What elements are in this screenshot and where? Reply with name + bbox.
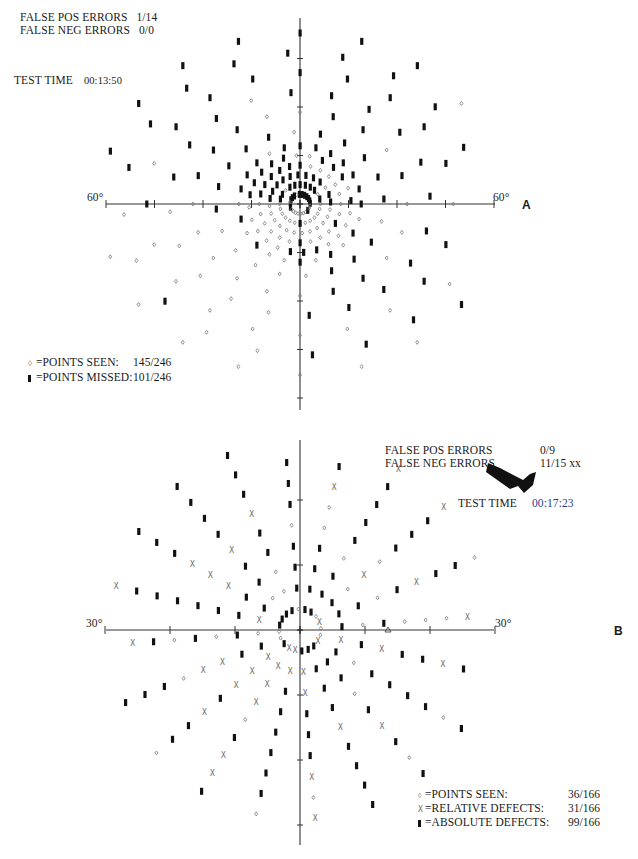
svg-text:X: X: [441, 503, 446, 512]
svg-text:X: X: [338, 723, 343, 732]
svg-text:X: X: [380, 722, 385, 731]
svg-text:X: X: [221, 751, 226, 760]
legend-b-relative: X=RELATIVE DEFECTS:: [418, 802, 544, 814]
svg-text:X: X: [266, 653, 271, 662]
svg-text:X: X: [287, 644, 292, 653]
svg-text:X: X: [226, 582, 231, 591]
svg-text:X: X: [414, 578, 419, 587]
svg-text:X: X: [249, 510, 254, 519]
legend-b-absolute: =ABSOLUTE DEFECTS:: [418, 816, 549, 828]
axis-b-left-label: 30°: [86, 617, 102, 629]
svg-text:X: X: [265, 680, 270, 689]
svg-text:X: X: [288, 667, 293, 676]
svg-text:X: X: [130, 639, 135, 648]
legend-b-seen: ◊=POINTS SEEN:: [418, 788, 508, 800]
svg-text:X: X: [379, 645, 384, 654]
svg-text:X: X: [208, 571, 213, 580]
svg-text:X: X: [303, 689, 308, 698]
svg-text:X: X: [220, 658, 225, 667]
svg-text:X: X: [257, 616, 262, 625]
legend-b-relative-value: 31/166: [568, 802, 600, 814]
svg-text:X: X: [309, 773, 314, 782]
svg-text:X: X: [114, 582, 119, 591]
svg-text:X: X: [293, 646, 298, 655]
svg-text:X: X: [201, 666, 206, 675]
svg-text:X: X: [361, 571, 366, 580]
panel-b-letter: B: [614, 624, 623, 638]
svg-text:X: X: [313, 814, 318, 823]
svg-text:X: X: [465, 613, 470, 622]
svg-text:X: X: [332, 483, 337, 492]
svg-text:X: X: [250, 667, 255, 676]
svg-text:X: X: [396, 465, 401, 474]
svg-text:X: X: [190, 560, 195, 569]
svg-text:X: X: [338, 636, 343, 645]
svg-text:X: X: [301, 668, 306, 677]
svg-text:X: X: [210, 769, 215, 778]
visual-field-plot-b: XXXXXXXXXXXXXXXXXXXXXXXXXXXXXXXXXXXXXXX: [0, 0, 638, 859]
relative-marker-icon: X: [418, 805, 425, 814]
svg-text:X: X: [254, 698, 259, 707]
legend-b-absolute-value: 99/166: [568, 816, 600, 828]
absolute-marker-icon: [418, 820, 421, 827]
legend-b-seen-value: 36/166: [568, 788, 600, 800]
svg-text:X: X: [234, 681, 239, 690]
seen-marker-icon: ◊: [418, 792, 425, 800]
svg-text:X: X: [316, 637, 321, 646]
svg-text:X: X: [229, 546, 234, 555]
svg-text:X: X: [202, 708, 207, 717]
axis-b-right-label: 30°: [495, 617, 511, 629]
svg-text:X: X: [441, 660, 446, 669]
svg-text:X: X: [317, 618, 322, 627]
svg-text:X: X: [276, 662, 281, 671]
